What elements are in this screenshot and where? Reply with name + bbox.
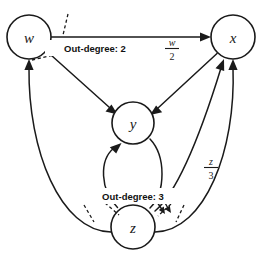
edge-w-to-y [47,51,118,115]
graph-canvas: w x y z Out-degree: 2 [0,0,263,263]
node-label-w: w [24,30,34,46]
node-label-y: y [128,116,137,132]
node-z[interactable]: z [111,205,155,249]
graph-diagram: w x y z Out-degree: 2 [0,0,263,263]
fraction-numerator-zx: z [208,156,213,167]
node-label-z: z [129,220,136,236]
fraction-numerator-wx: w [169,37,176,48]
edge-path-z-x-outer [155,68,233,232]
tick-dash-w-edge-1 [63,14,68,35]
tick-dash-z-edge-4 [176,205,184,222]
node-y[interactable]: y [112,102,154,144]
arrowhead-z-x-inner [216,59,225,71]
callout-label-w: Out-degree: 2 [64,43,126,54]
edge-path-w-y [47,51,110,108]
arrowhead-z-y [110,143,122,154]
edge-z-to-w [24,59,111,232]
node-w[interactable]: w [7,15,51,59]
edge-path-z-w [29,68,111,232]
edge-label-w-over-2: w 2 [165,37,179,62]
callout-label-z: Out-degree: 3 [102,191,164,202]
edge-x-to-y [150,54,217,116]
arrowhead-w-x [200,32,211,41]
fraction-denominator-wx: 2 [170,51,175,62]
arrowhead-z-x-outer [228,59,237,70]
arrowhead-z-w [24,59,33,70]
edge-path-x-y [158,54,217,109]
tick-dash-z-edge-1 [84,205,94,222]
node-x[interactable]: x [211,15,255,59]
node-label-x: x [229,30,237,46]
fraction-denominator-zx: 3 [209,170,214,181]
